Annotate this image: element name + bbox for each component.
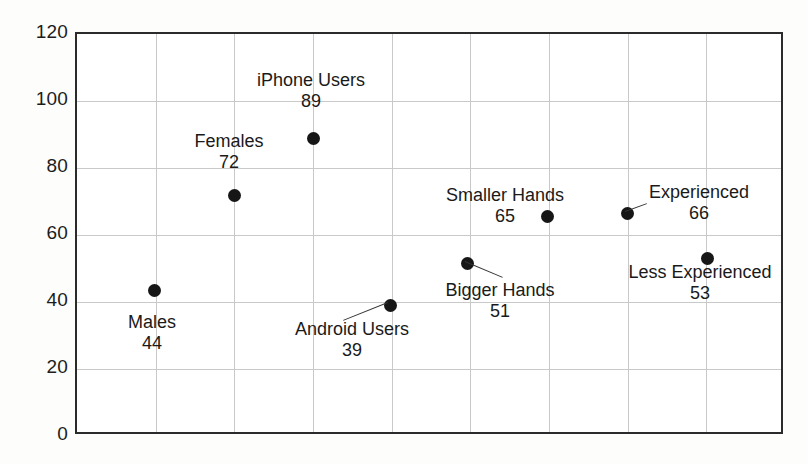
vertical-gridline xyxy=(470,34,471,432)
plot-area xyxy=(75,32,783,434)
vertical-gridline xyxy=(392,34,393,432)
data-point[interactable] xyxy=(384,299,397,312)
point-value: 89 xyxy=(257,91,365,112)
y-axis-tick-100: 100 xyxy=(6,88,68,110)
point-value: 53 xyxy=(628,283,771,304)
point-annotation: Android Users39 xyxy=(295,319,409,361)
vertical-gridline xyxy=(628,34,629,432)
vertical-gridline xyxy=(549,34,550,432)
y-axis-tick-80: 80 xyxy=(6,155,68,177)
y-axis-tick-120: 120 xyxy=(6,21,68,43)
point-annotation: Experienced66 xyxy=(649,182,749,224)
point-label: Smaller Hands xyxy=(446,185,564,206)
point-value: 65 xyxy=(446,206,564,227)
vertical-gridline xyxy=(156,34,157,432)
point-value: 66 xyxy=(649,203,749,224)
horizontal-gridline xyxy=(77,101,781,102)
y-axis-tick-labels: 120100806040200 xyxy=(0,0,68,464)
point-value: 44 xyxy=(128,333,176,354)
point-annotation: Smaller Hands65 xyxy=(446,185,564,227)
data-point[interactable] xyxy=(307,132,320,145)
point-value: 72 xyxy=(194,152,263,173)
point-value: 39 xyxy=(295,340,409,361)
point-label: Bigger Hands xyxy=(445,280,554,301)
horizontal-gridline xyxy=(77,168,781,169)
point-label: iPhone Users xyxy=(257,70,365,91)
y-axis-tick-0: 0 xyxy=(6,423,68,445)
data-point[interactable] xyxy=(148,284,161,297)
point-label: Females xyxy=(194,131,263,152)
y-axis-tick-60: 60 xyxy=(6,222,68,244)
point-annotation: Males44 xyxy=(128,312,176,354)
point-label: Experienced xyxy=(649,182,749,203)
point-annotation: Females72 xyxy=(194,131,263,173)
vertical-gridline xyxy=(706,34,707,432)
point-annotation: iPhone Users89 xyxy=(257,70,365,112)
y-axis-tick-40: 40 xyxy=(6,289,68,311)
horizontal-gridline xyxy=(77,235,781,236)
point-annotation: Bigger Hands51 xyxy=(445,280,554,322)
point-label: Android Users xyxy=(295,319,409,340)
vertical-gridline xyxy=(234,34,235,432)
point-annotation: Less Experienced53 xyxy=(628,262,771,304)
y-axis-tick-20: 20 xyxy=(6,356,68,378)
data-point[interactable] xyxy=(228,189,241,202)
point-label: Less Experienced xyxy=(628,262,771,283)
point-label: Males xyxy=(128,312,176,333)
chart-screenshot: 120100806040200 Males44Females72iPhone U… xyxy=(0,0,808,464)
point-value: 51 xyxy=(445,301,554,322)
horizontal-gridline xyxy=(77,369,781,370)
